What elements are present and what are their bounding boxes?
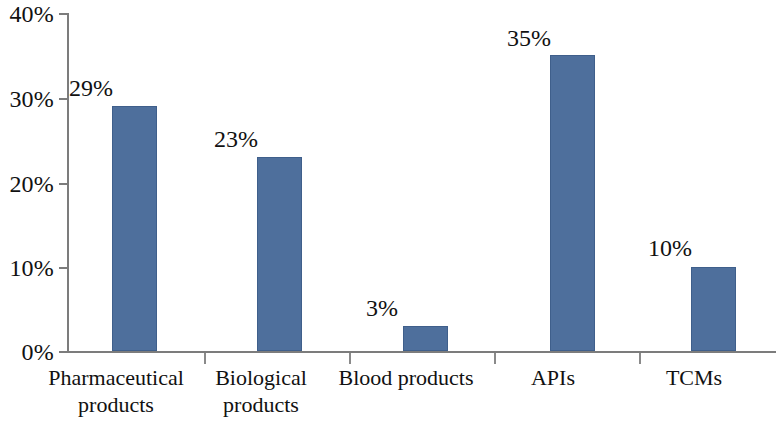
y-axis-label-10: 10%	[0, 256, 54, 280]
category-label-line1: APIs	[531, 365, 575, 390]
bar-value-blood-products: 3%	[337, 296, 427, 320]
bar-apis	[550, 55, 595, 351]
x-axis-category-blood-products: Blood products	[336, 364, 476, 391]
x-axis-tick	[349, 353, 351, 364]
y-axis-label-40: 40%	[0, 2, 54, 26]
x-axis-line	[67, 351, 776, 353]
category-label-line1: Blood products	[338, 365, 473, 390]
x-axis-tick	[204, 353, 206, 364]
x-axis-category-apis: APIs	[483, 364, 623, 391]
bar-tcms	[691, 267, 736, 352]
category-label-line1: Pharmaceutical	[48, 365, 184, 390]
x-axis-tick	[494, 353, 496, 364]
y-axis-label-20: 20%	[0, 172, 54, 196]
bar-value-tcms: 10%	[625, 236, 715, 260]
category-label-line1: Biological	[215, 365, 307, 390]
category-label-line2: products	[191, 391, 331, 418]
x-axis-category-tcms: TCMs	[624, 364, 764, 391]
bar-biological-products	[257, 157, 302, 351]
bar-value-pharmaceutical-products: 29%	[46, 76, 136, 100]
x-axis-category-biological-products: Biological products	[191, 364, 331, 418]
x-axis-tick	[639, 353, 641, 364]
y-axis-label-0: 0%	[0, 340, 54, 364]
bar-chart: 40% 30% 20% 10% 0% 29% 23% 3% 35% 10% Ph…	[0, 0, 776, 423]
x-axis-category-pharmaceutical-products: Pharmaceutical products	[46, 364, 186, 418]
bar-value-biological-products: 23%	[191, 127, 281, 151]
category-label-line1: TCMs	[666, 365, 722, 390]
category-label-line2: products	[46, 391, 186, 418]
bar-pharmaceutical-products	[112, 106, 157, 351]
bar-blood-products	[403, 326, 448, 351]
bar-value-apis: 35%	[484, 26, 574, 50]
